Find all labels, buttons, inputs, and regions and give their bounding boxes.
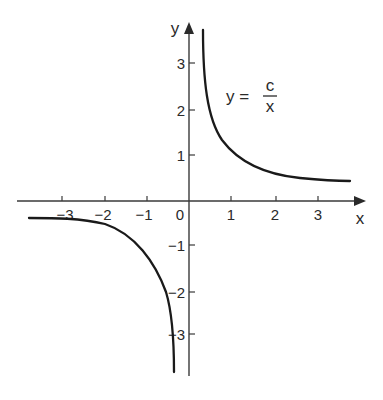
- x-tick-label: 3: [314, 206, 322, 223]
- y-tick-label: −1: [168, 237, 185, 254]
- equation-denominator: x: [266, 97, 275, 116]
- x-tick-label: 0: [176, 206, 184, 223]
- x-tick-label: 2: [271, 206, 279, 223]
- x-tick-label: −2: [94, 206, 111, 223]
- y-tick-label: 2: [177, 102, 185, 119]
- x-ticks: [62, 196, 318, 201]
- equation-label: y = c x: [226, 76, 277, 116]
- y-tick-label: −3: [168, 326, 185, 343]
- y-ticks: [189, 63, 195, 334]
- y-tick-label: 3: [177, 55, 185, 72]
- y-axis-arrow-icon: [184, 22, 194, 34]
- y-tick-label: −2: [168, 284, 185, 301]
- equation-lhs: y =: [226, 87, 249, 106]
- y-axis-label: y: [171, 19, 180, 38]
- x-axis-label: x: [356, 209, 365, 228]
- equation-numerator: c: [266, 76, 275, 95]
- x-tick-label: 1: [227, 206, 235, 223]
- hyperbola-diagram: −3 −2 −1 0 1 2 3 3 2 1 −1 −2 −3 x y y = …: [0, 0, 383, 400]
- y-tick-label: 1: [177, 147, 185, 164]
- curve-negative-branch: [29, 218, 174, 372]
- x-tick-label: −1: [135, 206, 152, 223]
- x-tick-label: −3: [56, 206, 73, 223]
- x-axis-arrow-icon: [354, 196, 366, 206]
